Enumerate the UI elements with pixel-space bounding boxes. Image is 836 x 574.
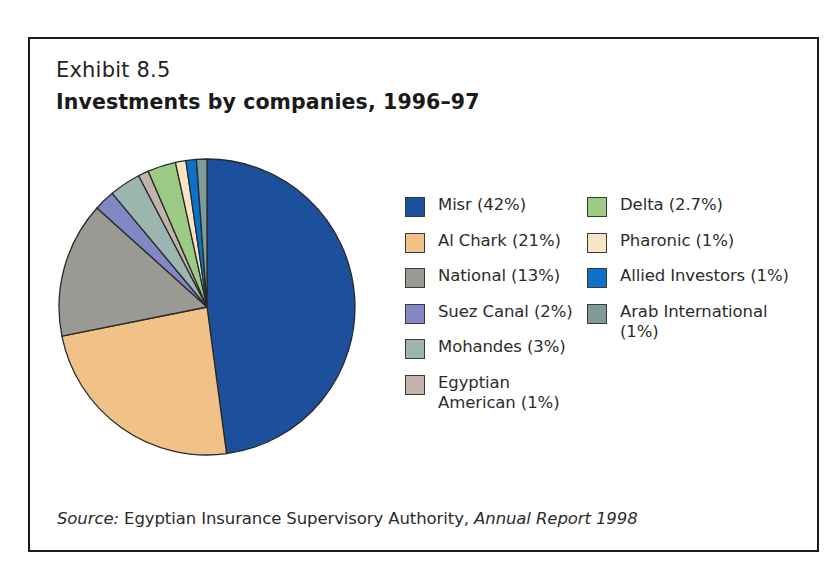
legend-item[interactable]: Pharonic (1%) [587,231,802,253]
source-body: Egyptian Insurance Supervisory Authority… [119,509,474,528]
legend-item-label: Pharonic (1%) [620,231,734,251]
legend-item[interactable]: Al Chark (21%) [405,231,587,253]
legend-item[interactable]: Suez Canal (2%) [405,302,587,324]
legend-item[interactable]: Egyptian American (1%) [405,373,587,413]
legend-swatch-egyptian-american [405,375,425,395]
legend-item-label: Delta (2.7%) [620,195,723,215]
legend-item[interactable]: Misr (42%) [405,195,587,217]
chart-legend: Misr (42%)Al Chark (21%)National (13%)Su… [405,195,805,426]
source-prefix: Source: [57,509,119,528]
source-note: Source: Egyptian Insurance Supervisory A… [57,509,638,528]
legend-swatch-allied-investors [587,268,607,288]
pie-slice[interactable] [207,159,355,454]
legend-item-label: Egyptian American (1%) [438,373,587,413]
legend-swatch-suez-canal [405,304,425,324]
legend-item[interactable]: National (13%) [405,266,587,288]
legend-item-label: Allied Investors (1%) [620,266,789,286]
legend-item-label: National (13%) [438,266,560,286]
legend-item-label: Misr (42%) [438,195,526,215]
page-title: Investments by companies, 1996–97 [56,89,696,116]
exhibit-frame: Exhibit 8.5 Investments by companies, 19… [28,37,819,552]
legend-item-label: Arab International (1%) [620,302,802,342]
legend-item[interactable]: Arab International (1%) [587,302,802,342]
source-publication: Annual Report 1998 [474,509,637,528]
legend-swatch-mohandes [405,339,425,359]
legend-item-label: Al Chark (21%) [438,231,561,251]
legend-swatch-arab-international [587,304,607,324]
legend-column-left: Misr (42%)Al Chark (21%)National (13%)Su… [405,195,587,426]
pie-chart [57,147,357,467]
legend-swatch-al-chark [405,233,425,253]
legend-item[interactable]: Delta (2.7%) [587,195,802,217]
pie-chart-svg [57,147,357,467]
legend-item-label: Suez Canal (2%) [438,302,573,322]
legend-column-right: Delta (2.7%)Pharonic (1%)Allied Investor… [587,195,802,426]
legend-swatch-national [405,268,425,288]
legend-swatch-misr [405,197,425,217]
exhibit-header: Exhibit 8.5 Investments by companies, 19… [56,57,696,116]
legend-swatch-pharonic [587,233,607,253]
pie-slice-group [59,159,355,455]
exhibit-number-label: Exhibit 8.5 [56,57,696,84]
legend-item[interactable]: Mohandes (3%) [405,337,587,359]
legend-item-label: Mohandes (3%) [438,337,566,357]
legend-item[interactable]: Allied Investors (1%) [587,266,802,288]
legend-swatch-delta [587,197,607,217]
